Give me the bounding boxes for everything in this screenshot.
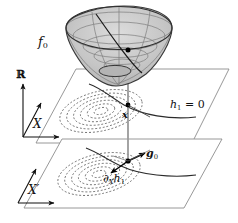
- figure-canvas: f0 ℝ X X′ h1 = 0 x g0 ∂Xh1: [0, 0, 238, 223]
- label-f0: f0: [38, 35, 48, 50]
- label-h1-equals-zero: h1 = 0: [170, 99, 205, 112]
- label-g0: g0: [146, 148, 158, 161]
- label-partial-X-h1: ∂Xh1: [103, 173, 125, 186]
- label-X-prime-axis: X′: [28, 184, 39, 196]
- label-X-axis: X: [33, 118, 42, 130]
- label-point-x: x: [122, 110, 128, 120]
- label-R-axis: ℝ: [16, 69, 25, 80]
